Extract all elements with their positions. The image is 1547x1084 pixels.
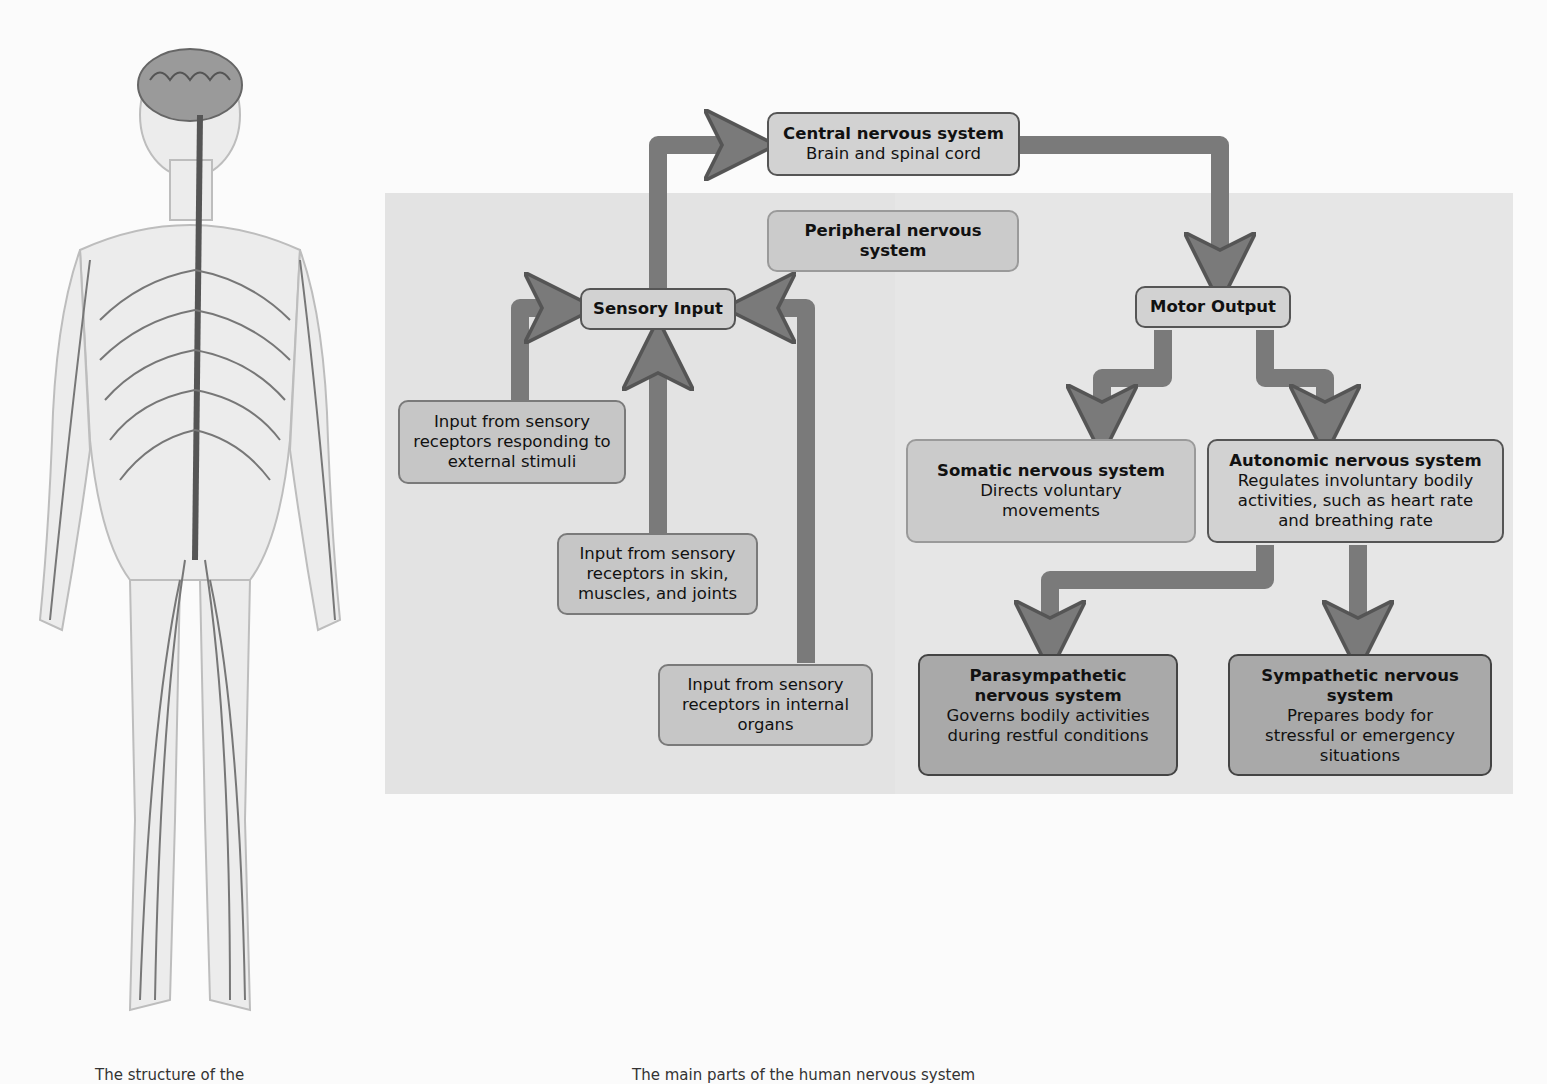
node-subtitle: Directs voluntary movements — [956, 481, 1146, 521]
figure-caption-left: The structure of the — [95, 1066, 244, 1084]
arrow-cns-to-motor — [1020, 145, 1220, 268]
node-title: Motor Output — [1150, 297, 1276, 317]
arrow-motor-to-autonomic — [1265, 330, 1325, 420]
node-sensory-input: Sensory Input — [580, 288, 736, 330]
arrow-sensory-to-cns — [658, 145, 740, 290]
node-input-external-stimuli: Input from sensory receptors responding … — [398, 400, 626, 484]
figure-caption-right: The main parts of the human nervous syst… — [632, 1066, 975, 1084]
node-text: Input from sensory receptors in internal… — [666, 675, 866, 735]
node-subtitle: Brain and spinal cord — [806, 144, 981, 164]
node-somatic-nervous-system: Somatic nervous system Directs voluntary… — [906, 439, 1196, 543]
node-subtitle: Regulates involuntary bodily activities,… — [1221, 471, 1491, 531]
node-title: Peripheral nervous system — [803, 221, 983, 261]
node-parasympathetic-nervous-system: Parasympathetic nervous system Governs b… — [918, 654, 1178, 776]
arrow-autonomic-to-parasympathetic — [1050, 545, 1265, 636]
node-title: Autonomic nervous system — [1229, 451, 1481, 471]
arrow-external-to-sensory — [520, 308, 560, 400]
node-central-nervous-system: Central nervous system Brain and spinal … — [767, 112, 1020, 176]
node-text: Input from sensory receptors responding … — [412, 412, 612, 472]
node-subtitle: Prepares body for stressful or emergency… — [1255, 706, 1465, 766]
node-title: Sympathetic nervous system — [1260, 666, 1460, 706]
node-motor-output: Motor Output — [1135, 286, 1291, 328]
node-autonomic-nervous-system: Autonomic nervous system Regulates invol… — [1207, 439, 1504, 543]
arrow-organs-to-sensory — [760, 308, 806, 663]
arrow-motor-to-somatic — [1102, 330, 1163, 420]
node-subtitle: Governs bodily activities during restful… — [928, 706, 1168, 746]
node-input-internal-organs: Input from sensory receptors in internal… — [658, 664, 873, 746]
node-title: Somatic nervous system — [937, 461, 1165, 481]
node-peripheral-nervous-system: Peripheral nervous system — [767, 210, 1019, 272]
node-title: Central nervous system — [783, 124, 1004, 144]
node-text: Input from sensory receptors in skin, mu… — [568, 544, 748, 604]
node-title: Sensory Input — [593, 299, 723, 319]
node-input-skin-muscles-joints: Input from sensory receptors in skin, mu… — [557, 533, 758, 615]
node-title: Parasympathetic nervous system — [958, 666, 1138, 706]
node-sympathetic-nervous-system: Sympathetic nervous system Prepares body… — [1228, 654, 1492, 776]
